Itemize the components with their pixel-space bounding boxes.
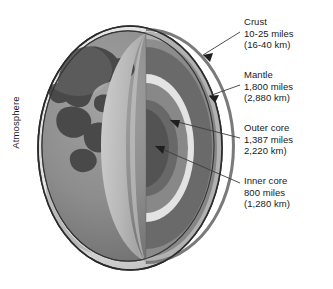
callout-outer-core: Outer core 1,387 miles 2,220 km) — [244, 122, 293, 157]
callout-inner-core-miles: 800 miles — [244, 187, 290, 199]
callout-crust-km: (16-40 km) — [244, 39, 294, 51]
callout-crust-name: Crust — [244, 16, 294, 28]
leader-line-crust — [203, 32, 240, 55]
callout-crust-miles: 10-25 miles — [244, 28, 294, 40]
callout-inner-core-name: Inner core — [244, 175, 290, 187]
atmosphere-label: Atmosphere — [10, 82, 21, 164]
callout-mantle: Mantle 1,800 miles (2,880 km) — [244, 69, 293, 104]
callout-inner-core-km: (1,280 km) — [244, 198, 290, 210]
callout-inner-core: Inner core 800 miles (1,280 km) — [244, 175, 290, 210]
callout-crust: Crust 10-25 miles (16-40 km) — [244, 16, 294, 51]
callout-outer-core-miles: 1,387 miles — [244, 134, 293, 146]
callout-mantle-miles: 1,800 miles — [244, 81, 293, 93]
callout-outer-core-name: Outer core — [244, 122, 293, 134]
callout-mantle-km: (2,880 km) — [244, 92, 293, 104]
callout-outer-core-km: 2,220 km) — [244, 145, 293, 157]
callout-mantle-name: Mantle — [244, 69, 293, 81]
